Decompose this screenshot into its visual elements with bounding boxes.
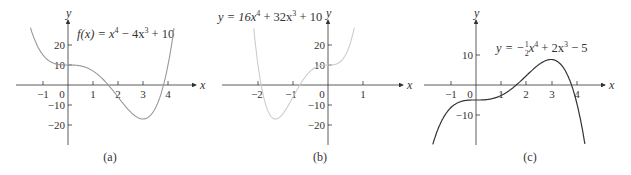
x-tick-label: −2	[251, 88, 263, 100]
curve-b	[254, 28, 354, 119]
curve-c	[433, 60, 585, 145]
x-ticks	[258, 81, 363, 85]
x-tick-label: 0	[467, 88, 473, 100]
y-tick-label: −20	[48, 119, 66, 131]
x-axis-label: x	[406, 78, 413, 92]
panel-a: −1 0 1 2 3 4 20 10 −10 −20 x y f(x) = x4…	[16, 6, 206, 164]
y-tick-label: 10	[462, 49, 474, 61]
x-axis-label: x	[199, 78, 206, 92]
formula-b: y = 16x4 + 32x3 + 10	[216, 9, 322, 24]
formula-a: f(x) = x4 − 4x3 + 10	[77, 26, 174, 41]
y-tick-label: 20	[54, 39, 66, 51]
formula-c: y = −12x4 + 2x3 − 5	[494, 40, 588, 58]
x-tick-label: 3	[549, 88, 555, 100]
x-tick-label: 1	[90, 88, 96, 100]
x-tick-label: 4	[165, 88, 171, 100]
x-axis-label: x	[608, 78, 615, 92]
y-tick-label: −10	[456, 109, 474, 121]
y-tick-label: −20	[308, 119, 326, 131]
panel-b: −2 −1 0 1 20 10 −10 −20 x y y = 16x4 + 3…	[216, 6, 413, 164]
figure: −1 0 1 2 3 4 20 10 −10 −20 x y f(x) = x4…	[0, 0, 631, 175]
y-tick-label: −10	[48, 99, 66, 111]
y-axis-label: y	[65, 6, 72, 20]
y-axis-label: y	[325, 6, 332, 20]
caption-c: (c)	[523, 150, 536, 164]
x-tick-label: 1	[360, 88, 366, 100]
x-tick-label: 2	[523, 88, 529, 100]
caption-a: (a)	[103, 150, 116, 164]
y-axis-label: y	[473, 6, 480, 20]
panel-c: −1 0 1 2 3 4 10 −10 x y y = −12x4 + 2x3 …	[424, 6, 615, 164]
caption-b: (b)	[313, 150, 327, 164]
y-tick-label: 20	[314, 39, 326, 51]
x-tick-label: −1	[445, 88, 457, 100]
x-ticks	[451, 81, 577, 85]
y-tick-label: −10	[308, 99, 326, 111]
x-tick-label: 3	[140, 88, 146, 100]
